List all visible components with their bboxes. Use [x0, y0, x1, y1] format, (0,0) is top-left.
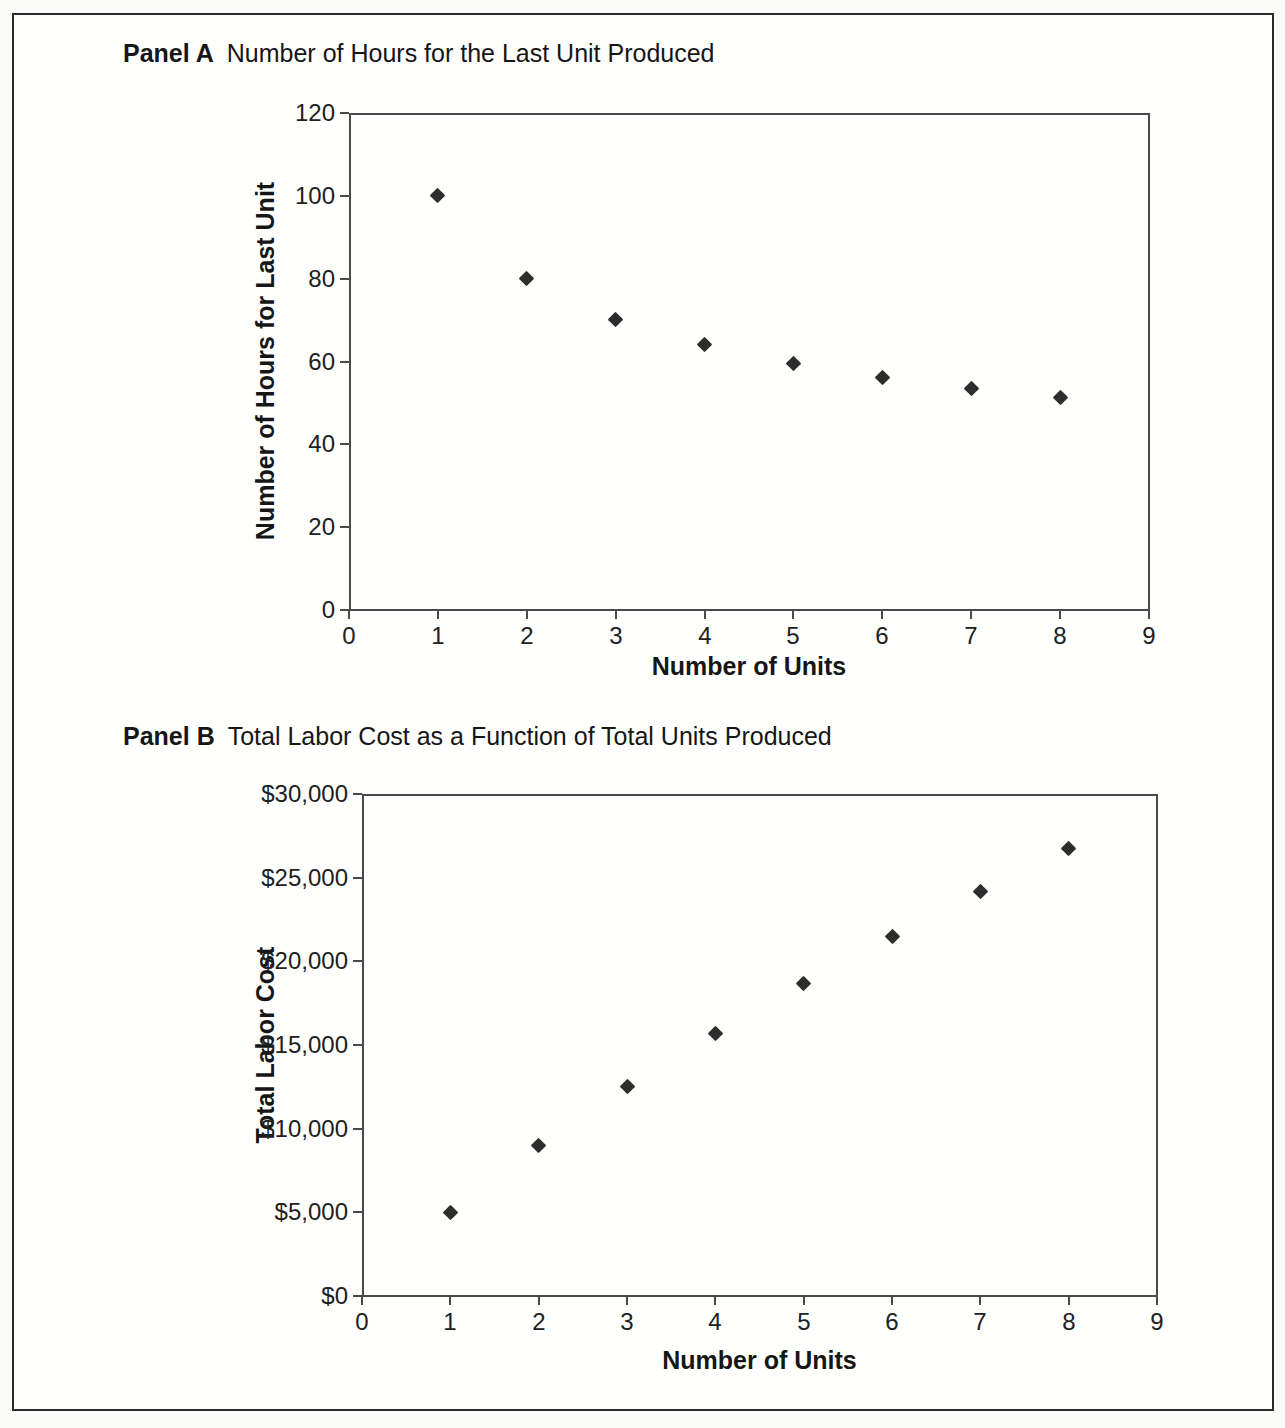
panel-a-x-tick — [348, 610, 350, 619]
panel-b-y-tick — [353, 877, 362, 879]
panel-b-y-tick — [353, 960, 362, 962]
panel-a-x-tick — [704, 610, 706, 619]
panel-a-plot-area — [349, 113, 1150, 611]
panel-b-y-tick — [353, 1044, 362, 1046]
panel-a-label: Panel A — [123, 39, 214, 67]
panel-b-y-tick-label: $20,000 — [182, 946, 348, 976]
panel-b-x-tick — [538, 1296, 540, 1305]
panel-b-x-tick — [803, 1296, 805, 1305]
panel-a-caption: Number of Hours for the Last Unit Produc… — [227, 39, 715, 67]
panel-a-x-axis-title: Number of Units — [349, 652, 1149, 681]
panel-b-label: Panel B — [123, 722, 215, 750]
panel-b-x-tick — [626, 1296, 628, 1305]
panel-b-y-tick-label: $30,000 — [182, 779, 348, 809]
panel-b-y-tick — [353, 1295, 362, 1297]
panel-b-x-tick-label: 7 — [935, 1307, 1025, 1337]
panel-b-plot-area — [362, 794, 1158, 1297]
panel-a-y-tick — [340, 278, 349, 280]
panel-a-x-tick — [1148, 610, 1150, 619]
panel-b-x-tick — [449, 1296, 451, 1305]
panel-a-x-tick-label: 0 — [304, 621, 394, 651]
panel-b-x-axis-title: Number of Units — [362, 1346, 1157, 1375]
panel-a-y-tick — [340, 609, 349, 611]
panel-b-y-tick — [353, 1128, 362, 1130]
panel-b-y-tick — [353, 1211, 362, 1213]
panel-b-x-tick-label: 2 — [494, 1307, 584, 1337]
panel-b-y-tick-label: $0 — [182, 1281, 348, 1311]
panel-a-x-tick-label: 1 — [393, 621, 483, 651]
panel-a-x-tick-label: 4 — [660, 621, 750, 651]
panel-b-title: Panel BTotal Labor Cost as a Function of… — [123, 721, 832, 751]
panel-b-y-tick — [353, 793, 362, 795]
panel-a-x-tick-label: 6 — [837, 621, 927, 651]
panel-b-caption: Total Labor Cost as a Function of Total … — [228, 722, 832, 750]
panel-a-x-tick-label: 8 — [1015, 621, 1105, 651]
panel-b-x-tick — [1156, 1296, 1158, 1305]
panel-b-x-tick-label: 8 — [1024, 1307, 1114, 1337]
panel-a-y-tick — [340, 526, 349, 528]
panel-a-x-tick — [970, 610, 972, 619]
panel-b-y-tick-label: $25,000 — [182, 863, 348, 893]
panel-b-y-tick-label: $5,000 — [182, 1197, 348, 1227]
panel-a-y-tick-label: 0 — [169, 595, 335, 625]
panel-b-x-tick — [361, 1296, 363, 1305]
panel-a-x-tick — [437, 610, 439, 619]
panel-a-y-tick — [340, 195, 349, 197]
panel-a-title: Panel ANumber of Hours for the Last Unit… — [123, 38, 715, 68]
panel-b-x-tick — [979, 1296, 981, 1305]
panel-a-x-tick-label: 9 — [1104, 621, 1194, 651]
panel-b-x-tick-label: 6 — [847, 1307, 937, 1337]
panel-b-x-tick-label: 9 — [1112, 1307, 1202, 1337]
panel-a-x-tick-label: 7 — [926, 621, 1016, 651]
panel-a-y-tick-label: 120 — [169, 98, 335, 128]
panel-a-y-tick-label: 80 — [169, 264, 335, 294]
panel-a-y-tick — [340, 443, 349, 445]
panel-b-y-tick-label: $15,000 — [182, 1030, 348, 1060]
panel-b-x-tick — [891, 1296, 893, 1305]
panel-a-y-tick-label: 60 — [169, 347, 335, 377]
panel-b-x-tick-label: 5 — [759, 1307, 849, 1337]
panel-b-x-tick-label: 4 — [670, 1307, 760, 1337]
panel-b-x-tick — [1068, 1296, 1070, 1305]
figure-page: { "figure": { "background_color": "#fbfb… — [0, 0, 1285, 1428]
panel-a-y-tick-label: 100 — [169, 181, 335, 211]
panel-b-x-tick-label: 1 — [405, 1307, 495, 1337]
panel-a-y-tick — [340, 112, 349, 114]
panel-b-x-tick-label: 0 — [317, 1307, 407, 1337]
panel-b-x-tick — [714, 1296, 716, 1305]
panel-a-x-tick — [1059, 610, 1061, 619]
panel-a-x-tick-label: 3 — [571, 621, 661, 651]
panel-a-x-tick — [615, 610, 617, 619]
panel-a-y-tick-label: 20 — [169, 512, 335, 542]
panel-a-y-tick-label: 40 — [169, 429, 335, 459]
panel-a-x-tick — [526, 610, 528, 619]
panel-a-x-tick-label: 2 — [482, 621, 572, 651]
panel-a-x-tick — [792, 610, 794, 619]
panel-a-x-tick-label: 5 — [748, 621, 838, 651]
panel-a-x-tick — [881, 610, 883, 619]
panel-a-y-tick — [340, 361, 349, 363]
panel-b-x-tick-label: 3 — [582, 1307, 672, 1337]
panel-b-y-tick-label: $10,000 — [182, 1114, 348, 1144]
